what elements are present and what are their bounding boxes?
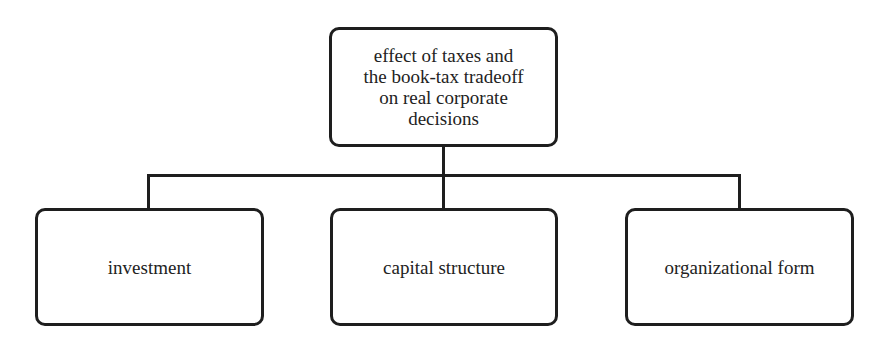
child-label-investment: investment <box>108 257 191 278</box>
org-chart-diagram: effect of taxes and the book-tax tradeof… <box>0 0 891 348</box>
root-line-1: effect of taxes and <box>363 45 523 66</box>
root-line-4: decisions <box>363 108 523 129</box>
child-connector-capital-structure <box>442 174 445 210</box>
root-line-2: the book-tax tradeoff <box>363 66 523 87</box>
child-label-organizational-form: organizational form <box>664 257 814 278</box>
root-line-3: on real corporate <box>363 87 523 108</box>
child-node-capital-structure: capital structure <box>330 208 558 326</box>
child-connector-investment <box>147 174 150 210</box>
child-node-organizational-form: organizational form <box>625 208 854 326</box>
child-connector-organizational-form <box>738 174 741 210</box>
root-stem-connector <box>442 145 445 177</box>
root-node: effect of taxes and the book-tax tradeof… <box>329 27 558 147</box>
root-node-text: effect of taxes and the book-tax tradeof… <box>363 45 523 129</box>
child-label-capital-structure: capital structure <box>383 257 505 278</box>
child-node-investment: investment <box>35 208 264 326</box>
